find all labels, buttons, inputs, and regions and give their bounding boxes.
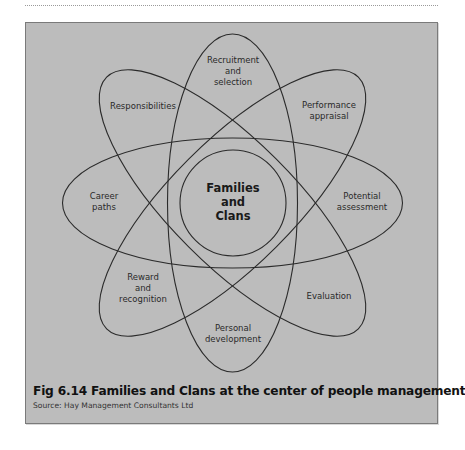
label-line: Personal — [205, 323, 261, 334]
label-line: Reward — [119, 272, 167, 283]
label-personal-development: Personal development — [205, 323, 261, 345]
label-line: assessment — [337, 202, 387, 213]
label-line: and — [207, 66, 259, 77]
label-line: selection — [207, 77, 259, 88]
center-label-line: Families — [206, 181, 259, 195]
center-label-families-and-clans: Families and Clans — [206, 181, 259, 223]
label-line: and — [119, 283, 167, 294]
label-line: Responsibilities — [110, 101, 176, 112]
label-reward-and-recognition: Reward and recognition — [119, 272, 167, 305]
label-evaluation: Evaluation — [307, 291, 352, 302]
center-label-line: and — [206, 195, 259, 209]
label-line: Performance — [302, 100, 356, 111]
label-responsibilities: Responsibilities — [110, 101, 176, 112]
center-label-line: Clans — [206, 209, 259, 223]
label-recruitment-and-selection: Recruitment and selection — [207, 55, 259, 88]
label-line: paths — [90, 202, 118, 213]
label-line: Evaluation — [307, 291, 352, 302]
label-line: appraisal — [302, 111, 356, 122]
label-line: Potential — [337, 191, 387, 202]
label-potential-assessment: Potential assessment — [337, 191, 387, 213]
label-line: Recruitment — [207, 55, 259, 66]
figure-source: Source: Hay Management Consultants Ltd — [33, 401, 193, 410]
label-line: development — [205, 334, 261, 345]
label-career-paths: Career paths — [90, 191, 118, 213]
label-line: Career — [90, 191, 118, 202]
label-line: recognition — [119, 294, 167, 305]
label-performance-appraisal: Performance appraisal — [302, 100, 356, 122]
figure-caption: Fig 6.14 Families and Clans at the cente… — [33, 384, 465, 398]
